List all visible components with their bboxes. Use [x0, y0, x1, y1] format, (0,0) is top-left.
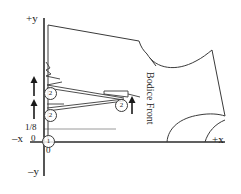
axis-label-negative-x: –x	[12, 133, 23, 144]
step-marker-2-apex: 2	[115, 99, 128, 112]
piece-name-label: Bodice Front	[145, 72, 155, 125]
dart-upper-stub	[47, 82, 62, 85]
dart-apex-tail	[128, 94, 140, 97]
dart-lower-leg-b	[47, 101, 124, 111]
shoulder-line	[48, 25, 139, 41]
dart-lower-leg-a	[47, 99, 124, 108]
up-arrow-left-upper	[31, 76, 38, 96]
up-arrow-dart-apex	[129, 96, 136, 114]
dart-upper-leg-a	[47, 85, 124, 98]
armhole-notch-mark	[150, 58, 156, 66]
axis-label-positive-x: +x	[212, 134, 224, 145]
dart-upper-leg-b	[47, 88, 124, 100]
neck-corner-curve	[139, 41, 147, 54]
eighth-measure-label: 1/8	[25, 123, 37, 132]
step-marker-2-lower: 2	[44, 109, 57, 122]
step-marker-2-upper: 2	[44, 87, 57, 100]
up-arrow-left-lower	[31, 99, 38, 119]
axis-label-positive-y: +y	[26, 13, 38, 24]
pattern-diagram-canvas: +y –y +x –x 0 0 1/8 Bodice Front 1 2 2 2	[0, 0, 241, 194]
axis-label-negative-y: –y	[28, 166, 39, 177]
dart-apex-wedge	[104, 91, 128, 97]
side-seam-line	[212, 50, 225, 116]
step-marker-1: 1	[42, 135, 55, 148]
armhole-curve	[147, 50, 212, 68]
origin-label-left: 0	[31, 134, 36, 143]
